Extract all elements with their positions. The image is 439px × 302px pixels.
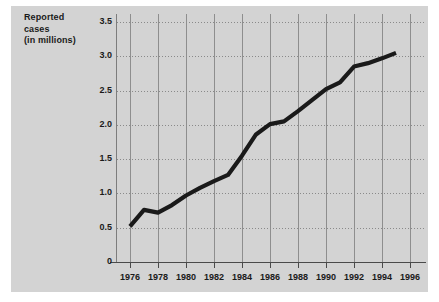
gridline-vertical xyxy=(242,14,243,262)
x-axis-tick xyxy=(242,263,243,268)
y-axis-tick-label-text: 0 xyxy=(90,256,112,266)
x-axis-tick xyxy=(326,263,327,268)
y-axis-tick-label: 2.5 xyxy=(88,85,112,96)
gridline-vertical xyxy=(270,14,271,262)
y-axis-tick-label-text: 1.5 xyxy=(90,153,112,163)
gridline-vertical xyxy=(130,14,131,262)
y-axis-tick-label-text: 2.5 xyxy=(90,85,112,95)
y-axis-tick-label: 0 xyxy=(88,256,112,267)
x-axis-tick xyxy=(158,263,159,268)
gridline-vertical xyxy=(298,14,299,262)
x-axis-tick xyxy=(214,263,215,268)
gridline-vertical xyxy=(410,14,411,262)
y-axis-line xyxy=(116,14,117,263)
x-axis-tick xyxy=(410,263,411,268)
series-line xyxy=(0,0,439,302)
x-axis-tick xyxy=(354,263,355,268)
x-axis-tick xyxy=(382,263,383,268)
gridline-vertical xyxy=(382,14,383,262)
gridline-vertical xyxy=(354,14,355,262)
x-axis-tick xyxy=(270,263,271,268)
plot-area: 00.51.01.52.02.53.03.5 19761978198019821… xyxy=(0,0,439,302)
gridline-vertical xyxy=(186,14,187,262)
y-axis-tick-label: 0.5 xyxy=(88,222,112,233)
gridline-vertical xyxy=(158,14,159,262)
y-axis-tick-label-text: 1.0 xyxy=(90,187,112,197)
y-axis-tick-label-text: 3.5 xyxy=(90,16,112,26)
x-axis-tick-label: 1996 xyxy=(393,272,427,282)
y-axis-tick-label: 1.0 xyxy=(88,187,112,198)
x-axis-tick xyxy=(130,263,131,268)
y-axis-tick-label-text: 0.5 xyxy=(90,222,112,232)
y-axis-tick-label-text: 3.0 xyxy=(90,50,112,60)
y-axis-tick-label: 1.5 xyxy=(88,153,112,164)
gridline-vertical xyxy=(214,14,215,262)
figure: Reported cases (in millions) 00.51.01.52… xyxy=(0,0,439,302)
y-axis-tick-label: 3.5 xyxy=(88,16,112,27)
x-axis-tick xyxy=(298,263,299,268)
gridline-vertical xyxy=(326,14,327,262)
y-axis-tick-label: 3.0 xyxy=(88,50,112,61)
y-axis-tick-label-text: 2.0 xyxy=(90,119,112,129)
x-axis-tick xyxy=(186,263,187,268)
y-axis-tick-label: 2.0 xyxy=(88,119,112,130)
